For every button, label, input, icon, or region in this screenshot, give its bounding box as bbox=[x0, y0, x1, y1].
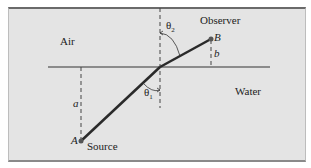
distance-b-label: b bbox=[214, 47, 220, 59]
water-label: Water bbox=[235, 85, 261, 97]
ray-water bbox=[81, 67, 160, 141]
theta2-subscript: 2 bbox=[171, 26, 175, 34]
refraction-diagram bbox=[0, 0, 311, 168]
theta2-arc bbox=[160, 33, 180, 56]
theta1-label: θ1 bbox=[144, 86, 153, 101]
distance-a-label: a bbox=[73, 97, 79, 109]
point-a-letter: A bbox=[71, 134, 78, 146]
source-point bbox=[79, 139, 84, 144]
source-label: Source bbox=[87, 140, 118, 152]
air-label: Air bbox=[60, 35, 75, 47]
theta1-subscript: 1 bbox=[149, 93, 153, 101]
ray-air bbox=[160, 39, 211, 67]
theta2-label: θ2 bbox=[166, 19, 175, 34]
point-b-letter: B bbox=[214, 31, 221, 43]
observer-point bbox=[209, 37, 214, 42]
observer-label: Observer bbox=[200, 14, 240, 26]
